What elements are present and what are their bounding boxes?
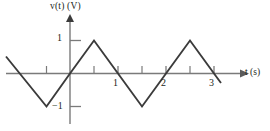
x-tick-label-3: 3 — [209, 78, 214, 88]
x-axis-label-text: t (s) — [245, 67, 260, 77]
waveform-figure: v(t) (V) t (s) 1 2 3 1 −1 — [0, 0, 270, 131]
y-tick-label-negative-1: −1 — [52, 101, 63, 111]
waveform-plot-svg — [0, 0, 270, 131]
y-axis-label-text: v(t) (V) — [50, 1, 81, 11]
y-tick-label-positive-1: 1 — [57, 33, 62, 43]
x-tick-label-2: 2 — [161, 78, 166, 88]
y-axis-arrowhead — [66, 14, 74, 22]
x-axis-label: t (s) — [245, 68, 260, 78]
x-tick-label-1: 1 — [113, 78, 118, 88]
y-axis-label: v(t) (V) — [50, 2, 81, 12]
